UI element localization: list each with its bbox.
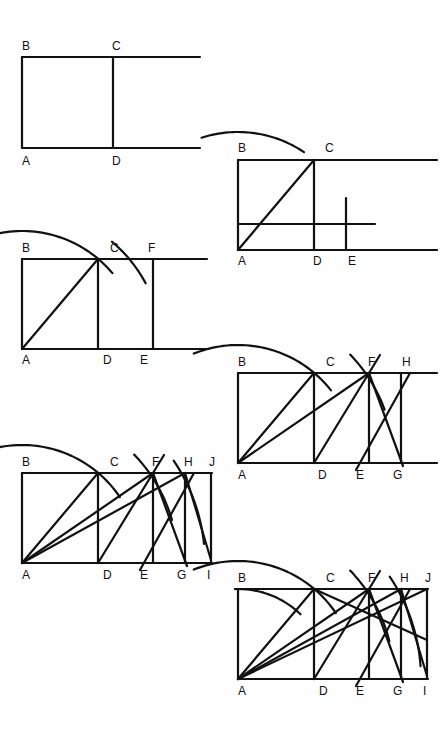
point-label-c: C bbox=[325, 141, 334, 155]
point-label-a: A bbox=[22, 568, 30, 582]
root-five-complete: BCFHJADEGI bbox=[194, 561, 431, 698]
point-label-h: H bbox=[400, 571, 409, 585]
point-label-e: E bbox=[140, 353, 148, 367]
point-label-g: G bbox=[393, 468, 402, 482]
point-label-f: F bbox=[148, 241, 155, 255]
point-label-i: I bbox=[207, 568, 210, 582]
point-label-e: E bbox=[356, 468, 364, 482]
diagonal-aj-line bbox=[238, 589, 427, 679]
point-label-a: A bbox=[238, 468, 246, 482]
diagram-sheet: BCADBCADEBCFADEBCFHADEGBCFHJADEGIBCFHJAD… bbox=[0, 0, 448, 732]
point-label-e: E bbox=[356, 684, 364, 698]
square-abcd: BCAD bbox=[22, 39, 200, 168]
point-label-a: A bbox=[238, 684, 246, 698]
arc-c-to-e-arc bbox=[0, 231, 112, 273]
point-label-c: C bbox=[110, 241, 119, 255]
point-label-b: B bbox=[238, 141, 246, 155]
point-label-d: D bbox=[112, 154, 121, 168]
point-label-d: D bbox=[103, 353, 112, 367]
point-label-j: J bbox=[425, 571, 431, 585]
point-label-b: B bbox=[22, 39, 30, 53]
point-label-g: G bbox=[393, 684, 402, 698]
point-label-c: C bbox=[326, 571, 335, 585]
point-label-b: B bbox=[22, 241, 30, 255]
point-label-f: F bbox=[368, 355, 375, 369]
point-label-a: A bbox=[22, 154, 30, 168]
arc-h-to-i-arc bbox=[390, 577, 421, 667]
point-label-c: C bbox=[326, 355, 335, 369]
diagonal-ah-line bbox=[238, 589, 401, 679]
chord-f-to-g-line bbox=[153, 473, 187, 566]
diagonal-ah-line bbox=[22, 473, 185, 563]
point-label-c: C bbox=[112, 39, 121, 53]
point-label-d: D bbox=[319, 684, 328, 698]
point-label-j: J bbox=[209, 455, 215, 469]
point-label-a: A bbox=[22, 353, 30, 367]
point-label-d: D bbox=[313, 254, 322, 268]
point-label-a: A bbox=[238, 254, 246, 268]
point-label-h: H bbox=[184, 455, 193, 469]
point-label-d: D bbox=[318, 468, 327, 482]
root-five-step: BCFHJADEGI bbox=[0, 445, 215, 582]
chord-h-to-i-line bbox=[401, 589, 427, 676]
arc-c-to-e-arc bbox=[0, 445, 120, 497]
arc-b-to-c-arc bbox=[235, 589, 301, 614]
point-label-b: B bbox=[22, 455, 30, 469]
point-label-c: C bbox=[110, 455, 119, 469]
point-label-f: F bbox=[152, 455, 159, 469]
diagonal-ac-line bbox=[22, 259, 98, 349]
chord-h-to-i-line bbox=[185, 473, 211, 560]
construction-canvas: BCADBCADEBCFADEBCFHADEGBCFHJADEGIBCFHJAD… bbox=[0, 0, 448, 732]
point-label-e: E bbox=[348, 254, 356, 268]
root-four-step: BCFHADEG bbox=[194, 345, 437, 482]
point-label-h: H bbox=[402, 355, 411, 369]
point-label-f: F bbox=[368, 571, 375, 585]
root-three-step: BCFADE bbox=[0, 231, 207, 367]
point-label-b: B bbox=[238, 355, 246, 369]
point-label-i: I bbox=[423, 684, 426, 698]
point-label-g: G bbox=[177, 568, 186, 582]
point-label-b: B bbox=[238, 571, 246, 585]
root-two-step: BCADE bbox=[202, 132, 437, 268]
point-label-d: D bbox=[103, 568, 112, 582]
point-label-e: E bbox=[140, 568, 148, 582]
chord-f-to-g-line bbox=[369, 373, 403, 466]
diagonal-ac-line bbox=[238, 160, 314, 250]
arc-c-to-e-arc bbox=[194, 345, 331, 390]
arc-c-to-e-arc bbox=[202, 132, 304, 152]
